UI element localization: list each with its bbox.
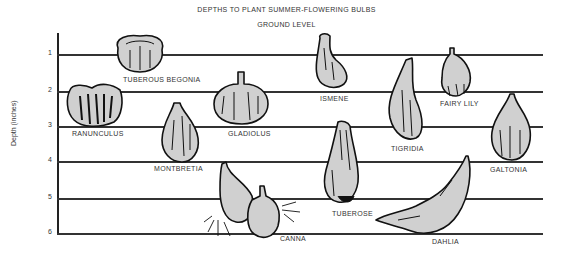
tuberous-begonia-icon bbox=[117, 36, 162, 73]
dahlia-icon bbox=[376, 156, 470, 233]
label-galtonia: GALTONIA bbox=[490, 166, 527, 173]
bulb-illustrations bbox=[0, 0, 573, 255]
galtonia-icon bbox=[492, 94, 531, 160]
canna-icon bbox=[204, 162, 300, 237]
tigridia-icon bbox=[389, 58, 422, 139]
label-tigridia: TIGRIDIA bbox=[391, 145, 424, 152]
label-tuberous-begonia: TUBEROUS BEGONIA bbox=[123, 76, 201, 83]
label-canna: CANNA bbox=[280, 235, 306, 242]
fairy-lily-icon bbox=[442, 48, 471, 96]
label-fairy-lily: FAIRY LILY bbox=[440, 100, 479, 107]
label-ranunculus: RANUNCULUS bbox=[72, 130, 124, 137]
ismene-icon bbox=[316, 34, 347, 88]
label-gladiolus: GLADIOLUS bbox=[228, 130, 271, 137]
label-ismene: ISMENE bbox=[320, 95, 349, 102]
label-dahlia: DAHLIA bbox=[432, 238, 459, 245]
ranunculus-icon bbox=[67, 84, 122, 126]
label-tuberose: TUBEROSE bbox=[332, 210, 373, 217]
label-montbretia: MONTBRETIA bbox=[154, 165, 203, 172]
bulb-depth-diagram: DEPTHS TO PLANT SUMMER-FLOWERING BULBS G… bbox=[0, 0, 573, 255]
tuberose-icon bbox=[325, 121, 359, 202]
gladiolus-icon bbox=[214, 72, 268, 124]
montbretia-icon bbox=[162, 103, 198, 162]
